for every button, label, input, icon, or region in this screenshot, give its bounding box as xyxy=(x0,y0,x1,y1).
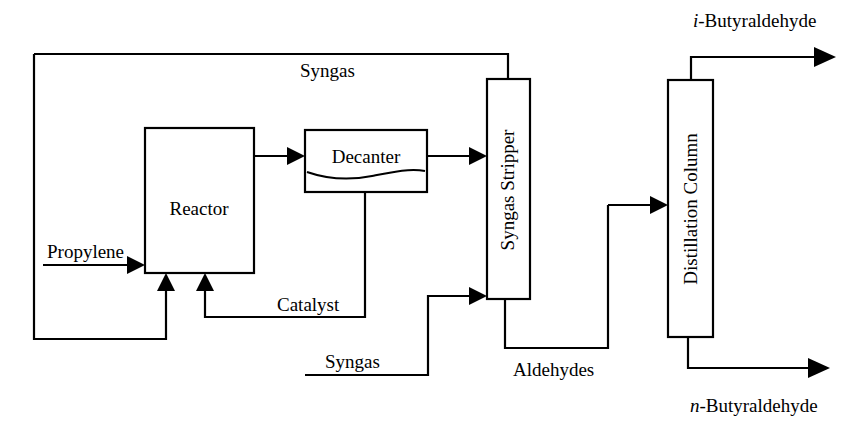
reactor-label: Reactor xyxy=(169,198,229,219)
normal-prefix: n xyxy=(690,395,700,416)
arrow-iso-butyraldehyde-out-icon xyxy=(814,47,836,67)
arrow-aldehydes-into-column-icon xyxy=(650,196,668,214)
syngas-recycle-label: Syngas xyxy=(300,60,355,81)
syngas-recycle-top-line xyxy=(34,54,508,79)
normal-suffix: -Butyraldehyde xyxy=(700,395,818,416)
syngas-feed-label: Syngas xyxy=(325,351,380,372)
arrow-decanter-into-stripper-icon xyxy=(469,147,487,165)
arrow-syngas-feed-into-stripper-icon xyxy=(469,287,487,305)
aldehydes-label: Aldehydes xyxy=(513,359,594,380)
pfd-canvas: Reactor Decanter Syngas Stripper Distill… xyxy=(0,0,868,424)
propylene-feed-label: Propylene xyxy=(47,241,124,262)
iso-suffix: -Butyraldehyde xyxy=(698,10,816,31)
arrow-normal-butyraldehyde-out-icon xyxy=(808,358,830,378)
iso-butyraldehyde-product-line xyxy=(691,57,825,80)
distillation-column-label: Distillation Column xyxy=(680,133,701,285)
normal-butyraldehyde-product-line xyxy=(688,337,819,368)
decanter-label: Decanter xyxy=(332,146,401,167)
arrow-recycle-into-reactor-icon xyxy=(157,273,175,291)
syngas-stripper-label: Syngas Stripper xyxy=(497,129,518,251)
normal-butyraldehyde-label: n-Butyraldehyde xyxy=(690,395,818,416)
arrow-propylene-into-reactor-icon xyxy=(127,256,145,274)
catalyst-label: Catalyst xyxy=(277,294,340,315)
arrow-catalyst-into-reactor-icon xyxy=(196,273,214,291)
arrow-reactor-into-decanter-icon xyxy=(287,147,305,165)
iso-butyraldehyde-label: i-Butyraldehyde xyxy=(693,10,816,31)
process-flow-diagram: Reactor Decanter Syngas Stripper Distill… xyxy=(0,0,868,424)
